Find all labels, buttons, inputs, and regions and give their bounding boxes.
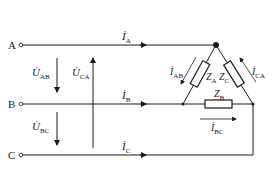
current-iab-label: İAB [169,66,183,80]
svg-text:B: B [8,98,15,110]
current-ib-label: İB [121,89,131,104]
current-ic-label: İC [121,140,131,155]
voltage-ubc-label: U̇BC [32,120,50,135]
current-ia-label: İA [121,30,131,45]
current-ibc-label: İBC [210,122,224,136]
voltage-uca-label: U̇CA [72,66,90,81]
impedance-za-label: ZA [206,71,217,85]
terminal-c: C [8,149,23,161]
voltage-uab-label: U̇AB [32,66,50,81]
terminal-b: B [8,98,23,110]
svg-text:C: C [8,149,15,161]
terminal-a: A [8,39,23,51]
impedance-zb [205,100,232,108]
impedance-zc-label: ZC [219,71,230,85]
svg-text:A: A [8,39,16,51]
circuit-diagram: A B C İA İB İC U̇AB U̇CA U̇BC [0,0,273,174]
